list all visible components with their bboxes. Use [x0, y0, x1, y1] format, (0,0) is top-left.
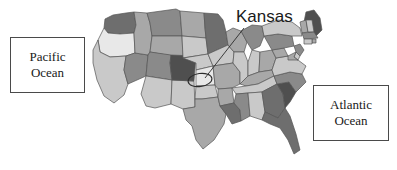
state-montana: [147, 9, 182, 36]
state-rhode-island: [312, 39, 316, 43]
pacific-ocean-line-2: Ocean: [31, 65, 64, 81]
state-connecticut: [304, 39, 312, 44]
state-arizona: [141, 76, 172, 108]
state-pennsylvania: [264, 34, 294, 50]
atlantic-ocean-line-2: Ocean: [334, 113, 367, 129]
atlantic-ocean-line-1: Atlantic: [330, 97, 372, 113]
state-florida: [262, 108, 300, 154]
us-choropleth-map-figure: Pacific Ocean Atlantic Ocean Kansas: [0, 0, 397, 170]
state-new-mexico: [171, 80, 195, 109]
state-north-dakota: [180, 11, 206, 38]
state-washington: [104, 12, 136, 34]
kansas-callout-label: Kansas: [236, 7, 293, 27]
pacific-ocean-label-box: Pacific Ocean: [10, 37, 85, 93]
atlantic-ocean-label-box: Atlantic Ocean: [313, 85, 389, 141]
state-utah: [146, 52, 172, 80]
pacific-ocean-line-1: Pacific: [29, 49, 65, 65]
state-nevada: [124, 53, 148, 84]
